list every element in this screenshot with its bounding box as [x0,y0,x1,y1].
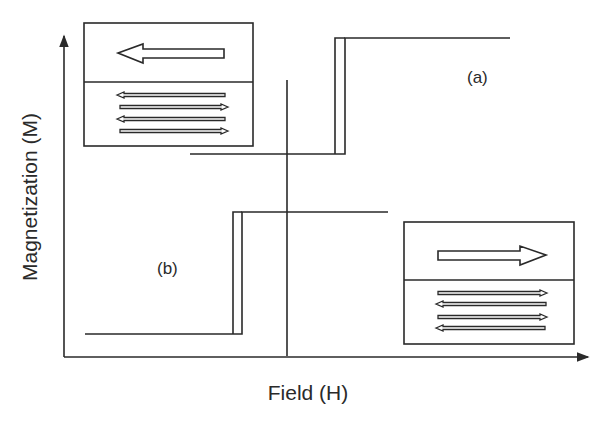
ferromagnet-arrow-left-icon [118,44,224,63]
curve-b-label: (b) [157,259,178,279]
x-axis-label: Field (H) [268,381,349,405]
hysteresis-diagram: Magnetization (M) Field (H) (a) (b) [0,0,603,424]
antiferromagnet-arrows-icon [436,290,547,331]
ferromagnet-arrow-right-icon [438,246,546,265]
y-axis-label: Magnetization (M) [18,113,42,281]
loop-b [85,212,388,334]
curve-a-label: (a) [467,68,488,88]
loop-a [190,38,510,154]
inset-positive-bias [404,222,574,344]
diagram-canvas [0,0,603,424]
inset-negative-bias [84,23,253,146]
antiferromagnet-arrows-icon [117,92,228,134]
